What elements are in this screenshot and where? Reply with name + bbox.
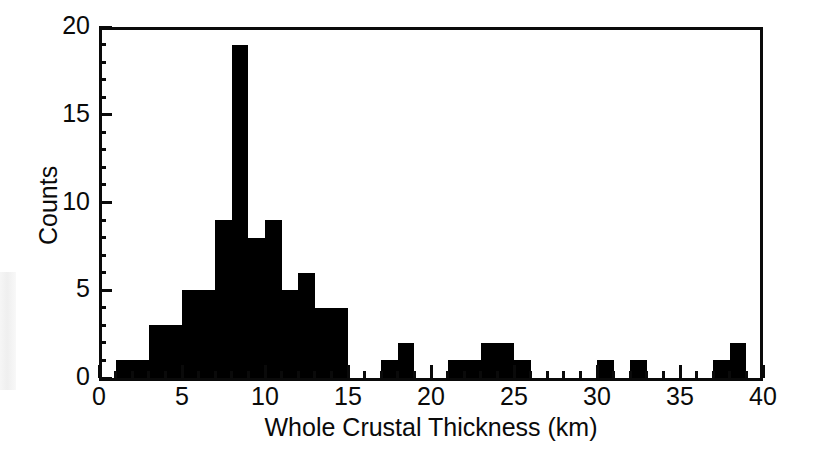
- histogram-bar: [630, 360, 647, 378]
- x-tick-label: 10: [225, 384, 305, 409]
- histogram-bar: [282, 290, 299, 378]
- y-tick-minor: [99, 271, 106, 274]
- x-tick-minor: [164, 371, 167, 378]
- histogram-bar: [381, 360, 398, 378]
- x-tick-minor: [363, 371, 366, 378]
- y-tick-major: [99, 289, 112, 292]
- histogram-bar: [232, 45, 249, 378]
- histogram-bar: [215, 220, 232, 378]
- x-tick-label: 25: [474, 384, 554, 409]
- histogram-bar: [481, 343, 498, 378]
- scan-edge-artifact: [0, 272, 16, 390]
- histogram-bar: [165, 325, 182, 378]
- x-tick-minor: [147, 371, 150, 378]
- y-tick-minor: [99, 324, 106, 327]
- x-tick-label: 30: [557, 384, 637, 409]
- x-tick-label: 40: [723, 384, 803, 409]
- x-tick-minor: [612, 371, 615, 378]
- histogram-bar: [265, 220, 282, 378]
- histogram-bar: [298, 273, 315, 378]
- x-tick-minor: [712, 371, 715, 378]
- x-tick-minor: [496, 371, 499, 378]
- y-tick-label: 0: [40, 364, 90, 389]
- x-tick-label: 5: [142, 384, 222, 409]
- x-tick-minor: [446, 371, 449, 378]
- x-tick-minor: [114, 371, 117, 378]
- y-tick-label: 15: [40, 101, 90, 126]
- histogram-bars: [99, 27, 763, 378]
- x-tick-minor: [396, 371, 399, 378]
- y-tick-minor: [99, 78, 106, 81]
- histogram-bar: [448, 360, 465, 378]
- x-tick-minor: [562, 371, 565, 378]
- x-tick-minor: [745, 371, 748, 378]
- histogram-bar: [149, 325, 166, 378]
- x-tick-major: [513, 365, 516, 378]
- x-tick-minor: [247, 371, 250, 378]
- histogram-bar: [398, 343, 415, 378]
- y-tick-major: [99, 26, 112, 29]
- histogram-bar: [514, 360, 531, 378]
- histogram-figure: 051015202530354005101520 Whole Crustal T…: [0, 0, 814, 457]
- histogram-bar: [182, 290, 199, 378]
- y-tick-label: 5: [40, 276, 90, 301]
- x-tick-minor: [197, 371, 200, 378]
- y-tick-minor: [99, 61, 106, 64]
- x-tick-minor: [728, 371, 731, 378]
- x-tick-label: 35: [640, 384, 720, 409]
- y-tick-label: 20: [40, 13, 90, 38]
- x-tick-minor: [330, 371, 333, 378]
- x-tick-label: 20: [391, 384, 471, 409]
- x-tick-major: [264, 365, 267, 378]
- y-tick-minor: [99, 219, 106, 222]
- y-tick-minor: [99, 96, 106, 99]
- x-tick-minor: [131, 371, 134, 378]
- y-tick-minor: [99, 43, 106, 46]
- x-tick-minor: [662, 371, 665, 378]
- histogram-bar: [199, 290, 216, 378]
- histogram-bar: [497, 343, 514, 378]
- histogram-bar: [464, 360, 481, 378]
- y-axis-label: Counts: [34, 166, 63, 245]
- x-tick-minor: [579, 371, 582, 378]
- x-tick-minor: [629, 371, 632, 378]
- x-tick-major: [430, 365, 433, 378]
- histogram-bar: [116, 360, 133, 378]
- x-tick-minor: [546, 371, 549, 378]
- x-tick-minor: [380, 371, 383, 378]
- x-tick-minor: [479, 371, 482, 378]
- y-tick-major: [99, 201, 112, 204]
- x-tick-minor: [695, 371, 698, 378]
- x-tick-major: [181, 365, 184, 378]
- x-tick-major: [762, 365, 765, 378]
- histogram-bar: [132, 360, 149, 378]
- x-tick-minor: [529, 371, 532, 378]
- x-tick-minor: [413, 371, 416, 378]
- x-tick-minor: [463, 371, 466, 378]
- y-tick-minor: [99, 341, 106, 344]
- x-tick-minor: [313, 371, 316, 378]
- histogram-bar: [730, 343, 747, 378]
- y-tick-minor: [99, 131, 106, 134]
- x-tick-minor: [645, 371, 648, 378]
- x-tick-minor: [297, 371, 300, 378]
- y-tick-minor: [99, 306, 106, 309]
- x-tick-minor: [280, 371, 283, 378]
- y-tick-minor: [99, 183, 106, 186]
- x-tick-major: [596, 365, 599, 378]
- y-tick-minor: [99, 166, 106, 169]
- y-tick-minor: [99, 359, 106, 362]
- x-tick-minor: [230, 371, 233, 378]
- y-tick-major: [99, 113, 112, 116]
- x-tick-major: [679, 365, 682, 378]
- x-tick-minor: [214, 371, 217, 378]
- x-tick-major: [347, 365, 350, 378]
- y-tick-major: [99, 377, 112, 380]
- histogram-bar: [597, 360, 614, 378]
- histogram-bar: [331, 308, 348, 378]
- axis-frame-bottom: [99, 378, 763, 381]
- y-tick-minor: [99, 148, 106, 151]
- y-tick-minor: [99, 236, 106, 239]
- x-tick-label: 15: [308, 384, 388, 409]
- histogram-bar: [713, 360, 730, 378]
